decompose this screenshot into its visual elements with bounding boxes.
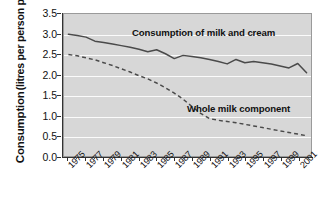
y-tick-label: 2.0	[42, 70, 57, 80]
y-tick-label: 1.0	[42, 111, 57, 121]
y-axis-ticks: 3.5 3.0 2.5 2.0 1.5 1.0 0.5 0.0	[30, 0, 61, 197]
y-tick-mark	[57, 136, 61, 137]
y-tick-label: 1.5	[42, 90, 57, 100]
y-tick-label: 3.0	[42, 29, 57, 39]
y-tick-mark	[57, 34, 61, 35]
y-tick-mark	[57, 54, 61, 55]
series-line-whole-milk	[68, 55, 306, 136]
series-line-milk-and-cream	[68, 34, 306, 73]
y-tick-label: 2.5	[42, 49, 57, 59]
x-tick-mark-minor	[165, 157, 166, 159]
plot-area: Consumption of milk and cream Whole milk…	[63, 13, 312, 157]
y-tick-mark	[57, 13, 61, 14]
x-tick-mark-minor	[147, 157, 148, 159]
x-tick-mark-minor	[219, 157, 220, 159]
y-axis-line	[62, 13, 63, 158]
y-tick-mark	[57, 116, 61, 117]
x-axis-ticks: 1975197719791981198319851987198919911993…	[63, 157, 313, 197]
x-tick-mark-minor	[183, 157, 184, 159]
y-tick-mark	[57, 157, 61, 158]
x-tick-mark-minor	[272, 157, 273, 159]
y-axis-title-line1: Consumption	[14, 91, 26, 163]
x-tick-mark-minor	[290, 157, 291, 159]
chart-figure: Consumption (litres per person per week)…	[0, 0, 323, 197]
x-tick-mark-minor	[254, 157, 255, 159]
x-tick-mark-minor	[112, 157, 113, 159]
series-label-milk-and-cream: Consumption of milk and cream	[132, 27, 275, 38]
x-tick-mark-minor	[236, 157, 237, 159]
y-tick-mark	[57, 95, 61, 96]
series-label-whole-milk: Whole milk component	[187, 103, 290, 114]
y-tick-label: 3.5	[42, 8, 57, 18]
y-tick-label: 0.5	[42, 131, 57, 141]
x-tick-mark-minor	[76, 157, 77, 159]
x-tick-mark-minor	[201, 157, 202, 159]
x-tick-mark-minor	[94, 157, 95, 159]
y-tick-label: 0.0	[42, 152, 57, 162]
y-axis-title-line2: (litres per person per week)	[14, 0, 26, 90]
x-tick-mark-minor	[130, 157, 131, 159]
y-tick-mark	[57, 75, 61, 76]
